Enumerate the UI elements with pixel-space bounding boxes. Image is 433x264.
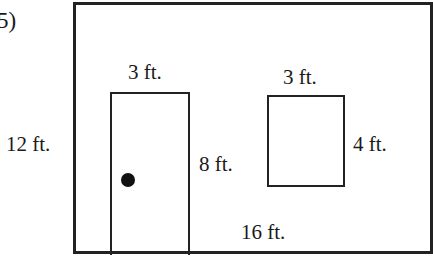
door-width-label: 3 ft. <box>128 62 162 83</box>
window-rectangle <box>267 95 345 187</box>
window-width-label: 3 ft. <box>283 67 317 88</box>
door-knob <box>121 173 135 187</box>
wall-height-label: 12 ft. <box>6 134 50 155</box>
door-height-label: 8 ft. <box>199 154 233 175</box>
window-height-label: 4 ft. <box>353 134 387 155</box>
problem-number: 5) <box>0 9 16 32</box>
wall-width-label: 16 ft. <box>241 222 285 243</box>
door-rectangle <box>110 92 190 255</box>
